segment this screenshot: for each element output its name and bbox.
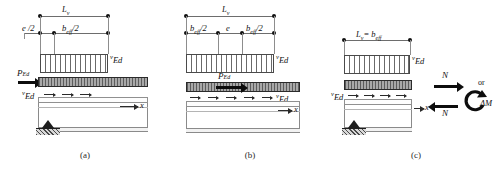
- x-axis-arrow-c: [414, 108, 424, 109]
- shear-arrow: [208, 97, 218, 98]
- dimension-line-lv-a: [40, 16, 108, 17]
- dim-label-lv-a: Lv: [62, 4, 69, 16]
- web-line: [38, 107, 148, 108]
- label-ved-load-c: vEd: [412, 54, 424, 66]
- label-ved-load-a: vEd: [110, 53, 122, 65]
- force-arrow-ped-a: [18, 81, 36, 84]
- label-n-bottom-c: N: [442, 108, 448, 118]
- label-delta-m-c: ΔM: [480, 98, 492, 108]
- panel-b: Lv beff/2 e beff/2 vEd PEd: [160, 0, 340, 173]
- dim-label-beff-half-left-b: beff/2: [190, 23, 207, 35]
- shear-arrow: [62, 94, 73, 95]
- caption-b: (b): [160, 150, 340, 160]
- shear-arrow: [80, 94, 91, 95]
- x-axis-arrow-a: [120, 106, 138, 107]
- shear-arrow: [244, 97, 254, 98]
- dim-label-beff-half-right-b: beff/2: [246, 23, 263, 35]
- extension-line: [40, 16, 41, 54]
- panel-c: Lv= beff vEd vEd x: [330, 0, 502, 173]
- shear-arrow: [380, 95, 390, 96]
- label-ped-a: PEd: [17, 68, 29, 78]
- shear-arrow: [226, 97, 236, 98]
- dimension-line-lv-b: [186, 16, 274, 17]
- label-n-top-c: N: [442, 70, 448, 80]
- label-ved-shear-c: vEd: [331, 90, 343, 102]
- dim-label-lv-b: Lv: [222, 4, 229, 16]
- label-x-axis-a: x: [140, 100, 144, 110]
- extension-line: [274, 16, 275, 54]
- caption-c: (c): [330, 150, 502, 160]
- dim-label-e-b: e: [226, 23, 230, 33]
- extension-line: [108, 16, 109, 54]
- dim-label-beff-half-a: beff/2: [62, 23, 79, 35]
- load-block-ved-c: [344, 55, 410, 74]
- figure-container: Lv e /2 beff/2 vEd PEd vEd: [0, 0, 502, 173]
- extension-line: [410, 40, 411, 55]
- label-ved-load-b: vEd: [276, 53, 288, 65]
- force-arrow-ped-b: [216, 86, 242, 89]
- shear-arrow: [396, 95, 406, 96]
- shear-arrow: [44, 94, 55, 95]
- web-line: [344, 109, 412, 110]
- web-line: [186, 111, 300, 112]
- label-ved-shear-a: vEd: [22, 89, 34, 101]
- slab-section-a: [38, 77, 148, 87]
- shear-arrow: [190, 97, 200, 98]
- label-ped-b: PEd: [218, 71, 230, 81]
- shear-arrow: [262, 97, 272, 98]
- load-block-ved-a: [40, 54, 108, 73]
- x-axis-arrow-b: [278, 110, 292, 111]
- panel-a: Lv e /2 beff/2 vEd PEd vEd: [0, 0, 170, 173]
- caption-a: (a): [0, 150, 170, 160]
- dim-label-e-half-a: e /2: [22, 23, 35, 33]
- support-ground-c: [342, 128, 366, 135]
- dim-label-lv-beff-c: Lv= beff: [356, 29, 382, 41]
- axial-force-arrow-top-c: [434, 85, 458, 88]
- label-x-axis-b: x: [294, 104, 298, 114]
- beam-bottom-flange-b: [186, 128, 300, 133]
- extension-line: [344, 40, 345, 55]
- support-ground-a: [36, 128, 60, 135]
- shear-arrow: [348, 95, 358, 96]
- extension-line: [186, 16, 187, 54]
- label-or-c: or: [478, 78, 485, 87]
- shear-arrow: [364, 95, 374, 96]
- pin-support-a: [42, 120, 54, 128]
- extension-line: [24, 33, 25, 39]
- pin-support-c: [348, 120, 360, 128]
- slab-section-c: [344, 80, 412, 90]
